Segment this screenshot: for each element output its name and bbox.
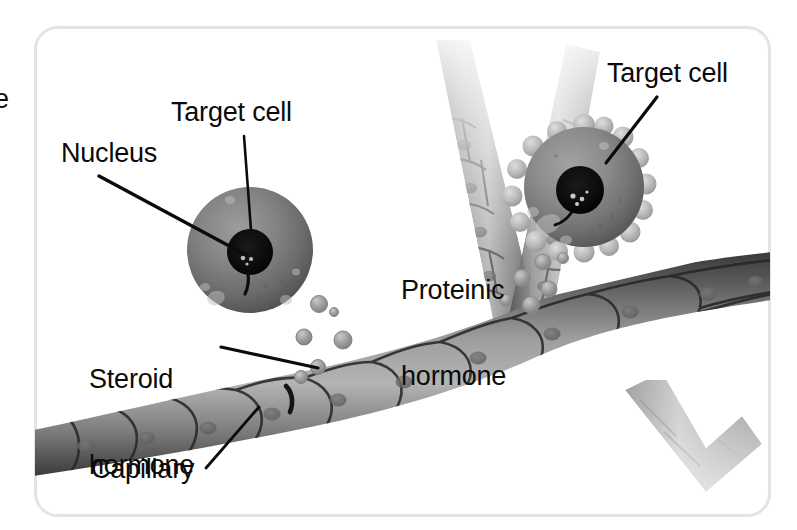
label-steroid-hormone-line1: Steroid xyxy=(89,365,194,394)
label-nucleus: Nucleus xyxy=(61,140,157,168)
label-proteinic-hormone: Proteinic hormone xyxy=(401,219,506,448)
cropped-edge-text: e xyxy=(0,84,16,115)
label-target-cell-right: Target cell xyxy=(607,60,728,88)
label-target-cell-left: Target cell xyxy=(171,99,292,127)
figure-root: e Target cell Nucleus Target cell Protei… xyxy=(0,0,797,530)
label-proteinic-hormone-line1: Proteinic xyxy=(401,276,506,305)
label-proteinic-hormone-line2: hormone xyxy=(401,362,506,391)
label-capillary: Capillary xyxy=(91,456,194,484)
label-steroid-hormone: Steroid hormone xyxy=(89,308,194,530)
